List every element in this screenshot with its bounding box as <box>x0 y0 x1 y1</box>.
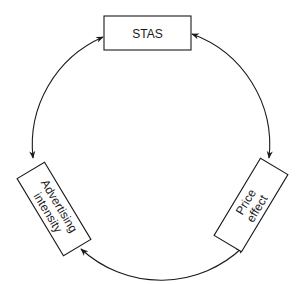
node-stas: STAS <box>104 16 191 50</box>
arrow-stas-price <box>192 34 270 158</box>
arrow-price-advertising <box>81 247 243 280</box>
cycle-diagram: STAS Price effect Advertising intensity <box>0 0 302 284</box>
node-advertising-intensity: Advertising intensity <box>17 162 91 256</box>
node-price-effect: Price effect <box>214 158 288 252</box>
node-stas-label: STAS <box>132 27 162 41</box>
arrow-advertising-stas <box>32 37 103 158</box>
